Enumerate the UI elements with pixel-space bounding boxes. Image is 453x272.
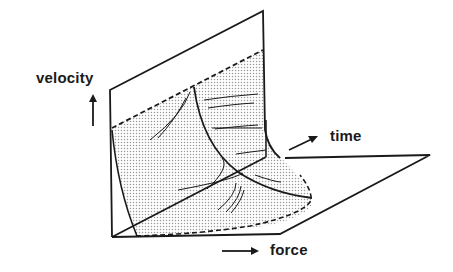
time-label: time	[330, 127, 362, 144]
time-arrow-icon	[289, 136, 318, 150]
velocity-label: velocity	[36, 69, 93, 86]
force-label: force	[270, 241, 308, 258]
force-arrow-icon	[222, 247, 259, 255]
velocity-arrow-icon	[89, 94, 97, 126]
surface-diagram	[0, 0, 453, 272]
